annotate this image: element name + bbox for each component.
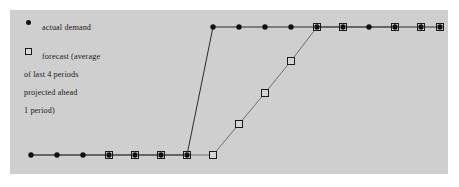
- open-square-marker-icon: [24, 47, 34, 57]
- chart-figure: actual demand forecast (average of last …: [0, 0, 459, 187]
- legend-item-forecast: forecast (average of last 4 periods proj…: [24, 45, 174, 117]
- legend-label-actual-demand: actual demand: [42, 23, 91, 32]
- chart-legend: actual demand forecast (average of last …: [24, 16, 174, 124]
- filled-circle-marker-icon: [24, 18, 34, 28]
- legend-item-actual-demand: actual demand: [24, 16, 174, 34]
- legend-label-forecast: forecast (average of last 4 periods proj…: [24, 52, 100, 115]
